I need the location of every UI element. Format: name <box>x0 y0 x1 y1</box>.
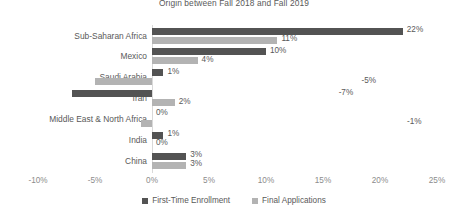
category-label: India <box>129 135 147 145</box>
chart-container: Origin between Fall 2018 and Fall 2019 S… <box>0 0 468 218</box>
bar-enrollment <box>152 153 186 160</box>
x-axis <box>0 173 468 174</box>
bar-value-label: -7% <box>339 88 354 97</box>
x-axis-tick-label: -10% <box>28 176 47 185</box>
chart-row: Middle East & North Africa0%-1% <box>152 109 437 130</box>
legend-item[interactable]: Final Applications <box>252 196 326 205</box>
bar-value-label: 1% <box>167 129 179 138</box>
category-label: Middle East & North Africa <box>49 114 147 124</box>
chart-row: Sub-Saharan Africa22%11% <box>152 26 437 47</box>
chart-row: Saudi Arabia1%-5% <box>152 68 437 89</box>
bar-value-label: 0% <box>156 108 168 117</box>
legend-swatch-icon <box>252 198 258 204</box>
legend-label: First-Time Enrollment <box>152 196 230 205</box>
bar-value-label: -1% <box>407 117 422 126</box>
plot-area: Sub-Saharan Africa22%11%Mexico10%4%Saudi… <box>152 26 437 172</box>
category-label: Mexico <box>120 51 147 61</box>
chart-row: India1%0% <box>152 130 437 151</box>
bar-applications <box>95 78 152 85</box>
category-label: China <box>125 156 147 166</box>
chart-title: Origin between Fall 2018 and Fall 2019 <box>0 0 468 8</box>
bar-enrollment <box>152 69 163 76</box>
legend-label: Final Applications <box>262 196 326 205</box>
bar-value-label: 4% <box>202 55 214 64</box>
bar-value-label: 1% <box>167 67 179 76</box>
bar-applications <box>152 99 175 106</box>
bar-value-label: 3% <box>190 150 202 159</box>
bar-applications <box>152 57 198 64</box>
chart-legend: First-Time EnrollmentFinal Applications <box>0 196 468 205</box>
bar-value-label: -5% <box>361 76 376 85</box>
x-axis-tick-label: 25% <box>429 176 445 185</box>
bar-value-label: 0% <box>156 138 168 147</box>
x-axis-tick-label: -5% <box>88 176 103 185</box>
chart-row: Iran-7%2% <box>152 89 437 110</box>
bar-value-label: 22% <box>407 25 423 34</box>
bar-enrollment <box>152 28 403 35</box>
x-axis-tick-label: 15% <box>315 176 331 185</box>
x-axis-tick-label: 20% <box>372 176 388 185</box>
legend-item[interactable]: First-Time Enrollment <box>142 196 230 205</box>
legend-swatch-icon <box>142 198 148 204</box>
chart-row: China3%3% <box>152 151 437 172</box>
bar-value-label: 10% <box>270 46 286 55</box>
bar-enrollment <box>72 90 152 97</box>
bar-applications <box>152 162 186 169</box>
x-axis-tick-label: 5% <box>203 176 215 185</box>
x-axis-tick-label: 10% <box>258 176 274 185</box>
bar-applications <box>152 37 277 44</box>
chart-row: Mexico10%4% <box>152 47 437 68</box>
bar-value-label: 11% <box>281 34 297 43</box>
bar-value-label: 2% <box>179 97 191 106</box>
bar-applications <box>141 120 152 127</box>
x-axis-tick-label: 0% <box>146 176 158 185</box>
category-label: Sub-Saharan Africa <box>74 31 147 41</box>
bar-value-label: 3% <box>190 159 202 168</box>
